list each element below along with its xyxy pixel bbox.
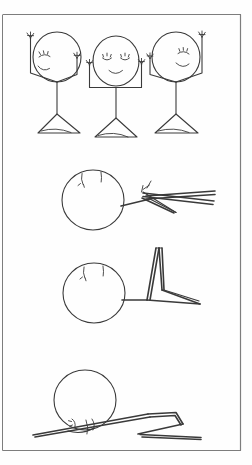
figure-center-foot-line xyxy=(98,133,128,137)
row-4-eyelash-2 xyxy=(70,425,73,426)
figure-group-row-1 xyxy=(27,31,205,137)
sketch-page: Stick figure rotation sketch Three stand… xyxy=(0,0,252,465)
figure-center-eye-right xyxy=(121,58,130,60)
figure-right-eyelash-1 xyxy=(179,49,180,52)
figure-group-row-2 xyxy=(62,170,215,230)
sketch-canvas xyxy=(0,0,252,465)
row-4-limb-2 xyxy=(150,416,181,426)
figure-left-foot-line xyxy=(41,129,71,132)
row-4-torso xyxy=(33,414,148,435)
figure-left-arm-right xyxy=(57,58,77,82)
row-4-eyelash-1 xyxy=(69,421,72,422)
figure-center-eyelash-r1 xyxy=(121,54,122,57)
row-2-limb-7 xyxy=(150,199,176,213)
row-3-mouth xyxy=(103,266,104,276)
figure-right-mouth xyxy=(176,63,189,67)
figure-right-foot-line xyxy=(158,129,189,132)
figure-left-arm-left xyxy=(31,38,58,82)
figure-left-eyelash-1 xyxy=(39,52,41,55)
row-4-eye xyxy=(72,419,75,427)
row-2-head xyxy=(62,170,124,230)
figure-right xyxy=(147,31,206,133)
row-2-mouth xyxy=(101,172,102,182)
row-2-eye xyxy=(81,174,83,185)
figure-center-arm-right xyxy=(116,64,142,88)
page-frame xyxy=(3,15,242,451)
figure-left-eyelash-3 xyxy=(48,52,49,55)
row-3-eye xyxy=(83,267,84,278)
figure-left-head xyxy=(33,32,81,82)
figure-left-mouth xyxy=(38,66,50,70)
row-4-limb-3 xyxy=(138,424,183,434)
figure-left xyxy=(27,32,81,133)
figure-center-eyelash-l3 xyxy=(110,54,111,57)
figure-group-row-3 xyxy=(63,248,200,323)
figure-center-eyelash-r3 xyxy=(128,54,129,57)
figure-left-hand-right xyxy=(74,52,81,58)
row-3-head xyxy=(63,263,125,323)
figure-group-row-4 xyxy=(33,370,201,440)
row-2-eyelash-1 xyxy=(78,184,81,186)
figure-center-head xyxy=(93,36,139,86)
row-4-inner-line xyxy=(86,420,88,434)
row-3-eyelash-2 xyxy=(85,278,86,281)
row-4-limb-1 xyxy=(148,413,183,425)
figure-right-hand-right xyxy=(199,31,206,37)
row-3-eyelash-1 xyxy=(80,277,83,279)
figure-right-eye xyxy=(178,52,189,54)
figure-center-eye-left xyxy=(103,58,112,60)
row-3-limb-base-3 xyxy=(164,290,199,301)
figure-center-mouth xyxy=(109,71,123,74)
figure-center-eyelash-l1 xyxy=(103,54,104,57)
row-2-eyelash-2 xyxy=(84,185,85,188)
figure-right-arm-right xyxy=(176,37,202,82)
figure-right-arm-left xyxy=(150,59,176,83)
figure-left-eye xyxy=(39,55,50,57)
figure-right-eyelash-3 xyxy=(187,49,188,52)
figure-left-hand-left xyxy=(27,32,34,38)
figure-right-head xyxy=(152,32,200,82)
figure-center-hand-left xyxy=(86,59,92,65)
figure-left-eyelash-2 xyxy=(43,51,44,54)
row-2-hand xyxy=(142,181,152,192)
figure-center xyxy=(86,36,144,137)
